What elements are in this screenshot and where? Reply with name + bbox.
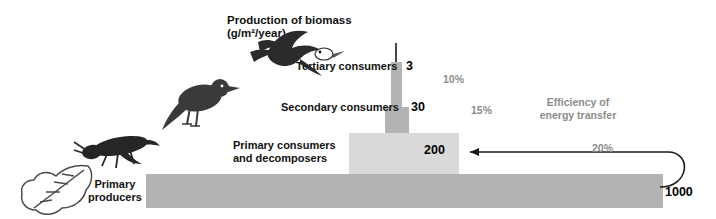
percent-primary-transfer: 20% (592, 142, 613, 154)
value-primary-consumers: 200 (424, 143, 445, 157)
value-secondary-consumers: 30 (411, 100, 425, 114)
magpie-bird-icon (250, 18, 360, 78)
percent-secondary-transfer: 15% (471, 104, 492, 116)
tier-label-secondary-consumers: Secondary consumers (281, 101, 399, 113)
tier-label-primary-producers-line1: Primary (94, 178, 135, 190)
efficiency-caption: Efficiency of energy transfer (518, 96, 638, 122)
energy-pyramid-diagram: Production of biomass (g/m²/year) Tertia… (0, 0, 716, 219)
tier-label-primary-consumers: Primary consumers and decomposers (233, 139, 336, 165)
tier-label-primary-consumers-line2: and decomposers (233, 152, 327, 164)
oak-leaf-icon (18, 162, 98, 217)
value-primary-producers: 1000 (665, 185, 693, 199)
percent-tertiary-transfer: 10% (443, 73, 464, 85)
efficiency-caption-line1: Efficiency of (547, 96, 609, 108)
songbird-icon (160, 72, 240, 142)
tier-label-primary-consumers-line1: Primary consumers (233, 139, 336, 151)
efficiency-caption-line2: energy transfer (540, 109, 616, 121)
value-tertiary-consumers: 3 (406, 59, 413, 73)
